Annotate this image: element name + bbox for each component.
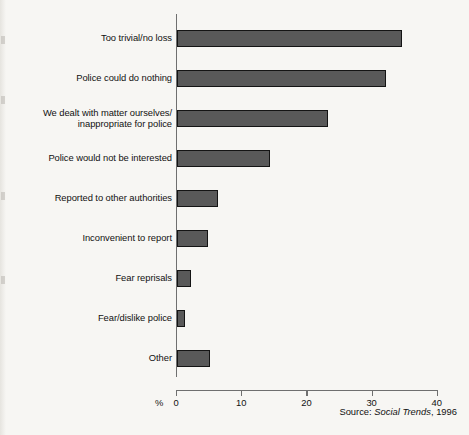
source-year: , 1996 bbox=[431, 406, 457, 417]
x-tick-label: 20 bbox=[301, 397, 311, 408]
bar-track bbox=[177, 298, 185, 338]
bar-track bbox=[177, 178, 218, 218]
bar-row: Fear/dislike police bbox=[0, 298, 469, 338]
bar-track bbox=[177, 218, 208, 258]
bar-row: Fear reprisals bbox=[0, 258, 469, 298]
bar-row: Inconvenient to report bbox=[0, 218, 469, 258]
x-tick-mark bbox=[372, 390, 373, 396]
bar-track bbox=[177, 258, 191, 298]
x-tick-label: 10 bbox=[236, 397, 246, 408]
bar bbox=[177, 30, 402, 47]
category-label: We dealt with matter ourselves/ inapprop… bbox=[0, 107, 172, 130]
category-label: Inconvenient to report bbox=[0, 232, 172, 243]
bar bbox=[177, 70, 386, 87]
bar-rows: Too trivial/no lossPolice could do nothi… bbox=[0, 14, 469, 377]
horizontal-bar-chart: Too trivial/no lossPolice could do nothi… bbox=[0, 0, 469, 435]
bar-track bbox=[177, 18, 402, 58]
bar-track bbox=[177, 338, 210, 378]
bar-row: Police would not be interested bbox=[0, 138, 469, 178]
x-tick-mark bbox=[437, 390, 438, 396]
bar bbox=[177, 230, 208, 247]
x-tick-mark bbox=[176, 390, 177, 396]
x-tick-label: 0 bbox=[173, 397, 178, 408]
bar-track bbox=[177, 138, 270, 178]
bar-row: We dealt with matter ourselves/ inapprop… bbox=[0, 98, 469, 138]
category-label: Police would not be interested bbox=[0, 152, 172, 163]
bar-row: Too trivial/no loss bbox=[0, 18, 469, 58]
category-label: Fear reprisals bbox=[0, 272, 172, 283]
bar-track bbox=[177, 98, 328, 138]
source-note: Source: Social Trends, 1996 bbox=[339, 406, 457, 417]
category-label: Other bbox=[0, 352, 172, 363]
x-tick-mark bbox=[241, 390, 242, 396]
category-label: Fear/dislike police bbox=[0, 312, 172, 323]
x-axis-percent-label: % bbox=[155, 397, 163, 408]
source-prefix: Source: bbox=[339, 406, 374, 417]
category-label: Police could do nothing bbox=[0, 72, 172, 83]
bar-track bbox=[177, 58, 386, 98]
bar bbox=[177, 110, 328, 127]
plot-area: Too trivial/no lossPolice could do nothi… bbox=[0, 14, 469, 374]
bar bbox=[177, 270, 191, 287]
source-publication-title: Social Trends bbox=[374, 406, 431, 417]
bar bbox=[177, 150, 270, 167]
bar-row: Police could do nothing bbox=[0, 58, 469, 98]
bar bbox=[177, 310, 185, 327]
bar-row: Other bbox=[0, 338, 469, 378]
x-tick-mark bbox=[306, 390, 307, 396]
bar bbox=[177, 350, 210, 367]
category-label: Reported to other authorities bbox=[0, 192, 172, 203]
category-label: Too trivial/no loss bbox=[0, 32, 172, 43]
bar-row: Reported to other authorities bbox=[0, 178, 469, 218]
bar bbox=[177, 190, 218, 207]
